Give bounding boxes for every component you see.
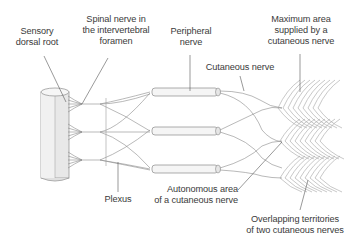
leader-cutaneous-nerve	[240, 76, 244, 91]
plexus-fibers	[100, 92, 150, 170]
label-autonomous-area: Autonomous area of a cutaneous nerve	[146, 184, 238, 206]
label-maximum-area: Maximum area supplied by a cutaneous ner…	[262, 14, 340, 47]
spinal-cord	[41, 88, 69, 181]
label-sensory-dorsal-root: Sensory dorsal root	[7, 26, 67, 48]
skin-territories	[278, 80, 344, 192]
leader-overlapping	[300, 180, 308, 210]
peripheral-nerve-tubes	[152, 88, 221, 173]
cutaneous-nerves	[220, 91, 282, 178]
label-cutaneous-nerve: Cutaneous nerve	[202, 62, 278, 73]
label-plexus: Plexus	[100, 194, 136, 205]
label-spinal-nerve: Spinal nerve in the intervertebral foram…	[76, 14, 156, 47]
leader-spinal-nerve	[82, 58, 108, 104]
label-peripheral-nerve: Peripheral nerve	[164, 26, 218, 48]
roots-and-spinal-nerves	[68, 96, 100, 168]
label-overlapping-territories: Overlapping territories of two cutaneous…	[242, 214, 348, 236]
